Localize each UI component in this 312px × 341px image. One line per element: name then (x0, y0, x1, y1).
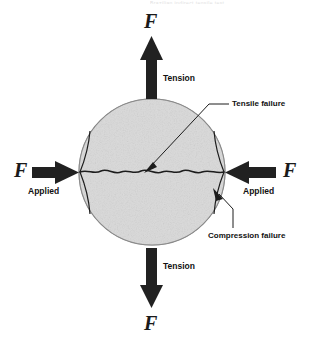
top-force-symbol: F (144, 11, 157, 31)
compression-failure-label: Compression failure (208, 232, 285, 240)
right-force-arrow-icon (225, 161, 276, 184)
top-tension-label: Tension (163, 74, 195, 83)
brazilian-test-diagram: Brazilian indirect tensile test (0, 0, 312, 341)
right-force-symbol: F (283, 160, 296, 180)
bottom-force-arrow-icon (140, 248, 163, 308)
diagram-canvas (0, 0, 312, 341)
tensile-failure-label: Tensile failure (232, 100, 285, 108)
bottom-tension-label: Tension (163, 262, 195, 271)
left-force-arrow-icon (32, 161, 79, 184)
right-applied-label: Applied (243, 187, 274, 196)
left-applied-label: Applied (28, 187, 59, 196)
top-force-arrow-icon (140, 36, 163, 99)
left-force-symbol: F (14, 160, 27, 180)
bottom-force-symbol: F (144, 313, 157, 333)
